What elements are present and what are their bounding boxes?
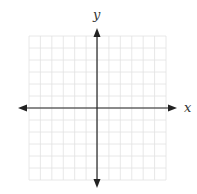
y-axis-down-arrow-icon [94, 179, 101, 188]
y-axis-up-arrow-icon [94, 28, 101, 37]
x-axis-right-arrow-icon [168, 105, 177, 112]
coordinate-plane: y x [0, 0, 197, 194]
x-axis-label: x [184, 100, 192, 115]
y-axis-label: y [92, 7, 101, 22]
x-axis-left-arrow-icon [18, 105, 27, 112]
